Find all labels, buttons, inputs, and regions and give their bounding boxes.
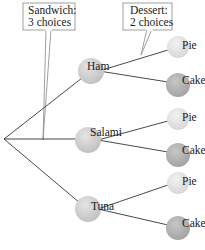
root-branches — [4, 78, 82, 203]
tree-diagram: Sandwich: 3 choices Dessert: 2 choices H… — [0, 0, 205, 250]
branch-root-tuna — [4, 139, 80, 203]
salami-label: Salami — [90, 126, 122, 138]
sandwich-callout: Sandwich: 3 choices — [23, 3, 77, 140]
dessert-callout-pointer — [141, 29, 152, 55]
dessert-callout: Dessert: 2 choices — [123, 3, 174, 55]
tuna-label: Tuna — [91, 200, 114, 212]
dessert-node-ham-pie: Pie — [167, 36, 197, 58]
branch-salami-cake — [98, 140, 168, 152]
dessert-node-salami-pie: Pie — [167, 108, 197, 130]
sandwich-node-ham: Ham — [78, 58, 109, 84]
pie-label: Pie — [182, 39, 197, 51]
dessert-node-tuna-cake: Cake — [166, 216, 205, 240]
branch-ham-cake — [99, 71, 168, 82]
pie-label: Pie — [182, 111, 197, 123]
sandwich-callout-pointer — [43, 29, 51, 140]
dessert-node-tuna-pie: Pie — [167, 172, 197, 194]
cake-label: Cake — [182, 217, 205, 229]
dessert-node-salami-cake: Cake — [166, 143, 205, 167]
ham-label: Ham — [87, 60, 109, 72]
sandwich-node-tuna: Tuna — [75, 196, 114, 222]
dessert-node-ham-cake: Cake — [166, 73, 205, 97]
sandwich-callout-count: 3 choices — [28, 16, 72, 28]
dessert-callout-title: Dessert: — [130, 4, 168, 16]
sandwich-callout-title: Sandwich: — [28, 4, 77, 16]
sandwich-node-salami: Salami — [75, 126, 122, 153]
cake-label: Cake — [182, 74, 205, 86]
pie-label: Pie — [182, 175, 197, 187]
dessert-callout-count: 2 choices — [130, 16, 174, 28]
cake-label: Cake — [182, 144, 205, 156]
